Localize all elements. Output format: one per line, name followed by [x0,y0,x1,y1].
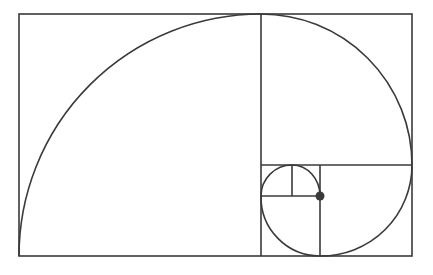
spiral-arc-upper-right [261,14,412,165]
spiral-arc-small-upper-left [261,165,292,196]
golden-spiral-diagram [0,0,433,275]
spiral-arc-tiny-upper-right [292,165,320,196]
spiral-center-dot [316,192,325,201]
outer-rectangle [19,14,412,256]
spiral-arc-lower-left [261,196,320,256]
spiral-arc-large [19,14,261,256]
spiral-arc-lower-right [320,165,412,256]
